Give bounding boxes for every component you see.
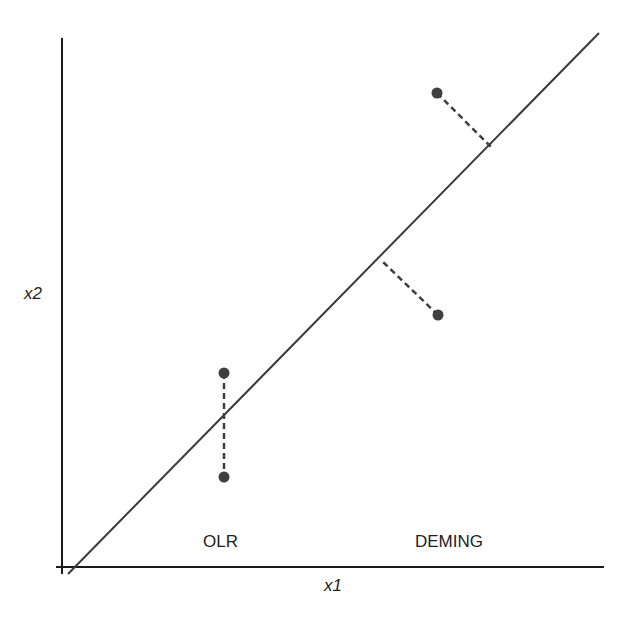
diagram-canvas — [0, 0, 624, 636]
y-axis-label: x2 — [24, 284, 42, 304]
deming-point-2 — [432, 88, 443, 99]
olr-label: OLR — [203, 532, 238, 552]
x-axis-label: x1 — [324, 576, 342, 596]
deming-label: DEMING — [415, 532, 483, 552]
deming-point-1 — [433, 310, 444, 321]
deming-residual-segment-2 — [437, 93, 491, 147]
regression-line — [68, 33, 599, 574]
deming-residual-segment-1 — [383, 262, 438, 315]
olr-bottom-point — [219, 472, 230, 483]
olr-top-point — [219, 368, 230, 379]
